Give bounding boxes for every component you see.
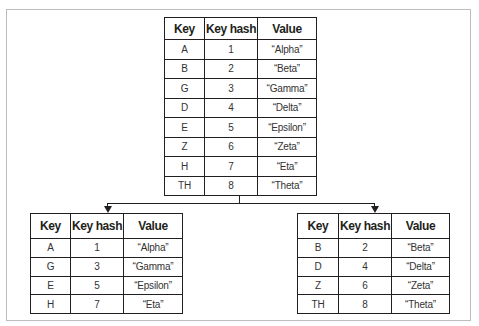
header-key-hash: Key hash [205, 18, 258, 40]
header-key-hash: Key hash [71, 214, 124, 239]
header-key: Key [298, 214, 339, 239]
value-cell: “Theta” [258, 176, 317, 196]
hash-cell: 7 [71, 295, 124, 314]
value-cell: “Alpha” [258, 40, 317, 60]
value-cell: “Eta” [124, 295, 183, 314]
key-cell: TH [298, 295, 339, 314]
table-row: B2“Beta” [298, 239, 450, 258]
source-hash-table: Key Key hash Value A1“Alpha” B2“Beta” G3… [164, 17, 317, 196]
hash-cell: 8 [339, 295, 392, 314]
value-cell: “Epsilon” [258, 118, 317, 138]
table-row: A1“Alpha” [31, 239, 183, 258]
arrow-down-icon [371, 206, 379, 213]
hash-cell: 7 [205, 157, 258, 177]
value-cell: “Delta” [258, 98, 317, 118]
hash-cell: 2 [339, 239, 392, 258]
value-cell: “Beta” [258, 59, 317, 79]
table-row: H7“Eta” [31, 295, 183, 314]
header-key: Key [31, 214, 71, 239]
hash-cell: 1 [205, 40, 258, 60]
key-cell: D [165, 98, 205, 118]
table-row: E5“Epsilon” [31, 276, 183, 295]
key-cell: A [165, 40, 205, 60]
value-cell: “Gamma” [124, 257, 183, 276]
value-cell: “Epsilon” [124, 276, 183, 295]
value-cell: “Zeta” [392, 276, 450, 295]
table-row: E5“Epsilon” [165, 118, 317, 138]
header-value: Value [124, 214, 183, 239]
hash-cell: 6 [205, 137, 258, 157]
value-cell: “Zeta” [258, 137, 317, 157]
value-cell: “Gamma” [258, 79, 317, 99]
header-row: Key Key hash Value [298, 214, 450, 239]
hash-cell: 3 [71, 257, 124, 276]
header-value: Value [258, 18, 317, 40]
table-row: TH8“Theta” [298, 295, 450, 314]
connector-horizontal [107, 203, 375, 204]
key-cell: H [31, 295, 71, 314]
value-cell: “Eta” [258, 157, 317, 177]
value-cell: “Beta” [392, 239, 450, 258]
header-key-hash: Key hash [339, 214, 392, 239]
key-cell: D [298, 257, 339, 276]
hash-cell: 3 [205, 79, 258, 99]
hash-cell: 4 [339, 257, 392, 276]
table-row: B2“Beta” [165, 59, 317, 79]
table-row: TH8“Theta” [165, 176, 317, 196]
key-cell: G [165, 79, 205, 99]
hash-cell: 5 [71, 276, 124, 295]
key-cell: Z [165, 137, 205, 157]
table-row: Z6“Zeta” [165, 137, 317, 157]
key-cell: A [31, 239, 71, 258]
table-row: D4“Delta” [165, 98, 317, 118]
table-row: A1“Alpha” [165, 40, 317, 60]
hash-cell: 5 [205, 118, 258, 138]
hash-cell: 8 [205, 176, 258, 196]
key-cell: G [31, 257, 71, 276]
value-cell: “Alpha” [124, 239, 183, 258]
table-row: G3“Gamma” [31, 257, 183, 276]
value-cell: “Theta” [392, 295, 450, 314]
header-row: Key Key hash Value [165, 18, 317, 40]
key-cell: TH [165, 176, 205, 196]
key-cell: E [165, 118, 205, 138]
hash-cell: 2 [205, 59, 258, 79]
hash-cell: 6 [339, 276, 392, 295]
hash-cell: 1 [71, 239, 124, 258]
value-cell: “Delta” [392, 257, 450, 276]
header-key: Key [165, 18, 205, 40]
table-row: G3“Gamma” [165, 79, 317, 99]
key-cell: E [31, 276, 71, 295]
table-row: D4“Delta” [298, 257, 450, 276]
key-cell: Z [298, 276, 339, 295]
arrow-down-icon [104, 206, 112, 213]
key-cell: H [165, 157, 205, 177]
key-cell: B [165, 59, 205, 79]
odd-hash-table: Key Key hash Value A1“Alpha” G3“Gamma” E… [30, 213, 183, 314]
table-row: H7“Eta” [165, 157, 317, 177]
header-row: Key Key hash Value [31, 214, 183, 239]
hash-cell: 4 [205, 98, 258, 118]
key-cell: B [298, 239, 339, 258]
table-row: Z6“Zeta” [298, 276, 450, 295]
even-hash-table: Key Key hash Value B2“Beta” D4“Delta” Z6… [297, 213, 450, 314]
header-value: Value [392, 214, 450, 239]
